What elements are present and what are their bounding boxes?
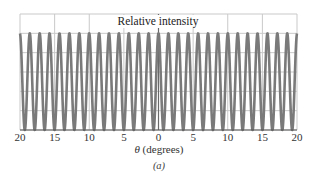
x-tick-label: 5 (121, 131, 127, 143)
x-tick-label: 0 (156, 131, 162, 143)
x-tick-label: 20 (15, 131, 26, 143)
intensity-chart: Relative intensity 201510505101520 θ (de… (0, 0, 318, 178)
theta-symbol: θ (134, 143, 139, 155)
x-tick-label: 20 (292, 131, 303, 143)
x-axis-unit: (degrees) (143, 143, 184, 155)
x-tick-label: 15 (49, 131, 60, 143)
x-tick-label: 10 (222, 131, 233, 143)
x-tick-label: 5 (190, 131, 196, 143)
figure-caption: (a) (153, 160, 165, 171)
x-tick-label: 15 (257, 131, 268, 143)
x-tick-label: 10 (84, 131, 95, 143)
x-axis-label: θ (degrees) (134, 143, 183, 155)
chart-title: Relative intensity (117, 15, 200, 28)
